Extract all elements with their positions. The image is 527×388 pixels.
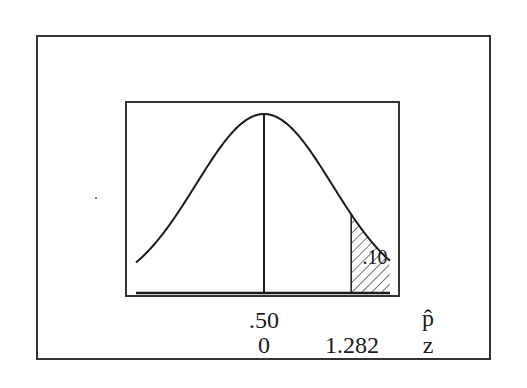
scan-speck: [95, 197, 97, 199]
phat-axis-label: p̂: [422, 306, 434, 330]
z-center-label: 0: [258, 333, 270, 357]
z-axis-label: z: [423, 333, 434, 357]
z-critical-label: 1.282: [325, 333, 379, 357]
phat-center-label: .50: [249, 308, 279, 332]
tail-area-label: .10: [363, 247, 388, 267]
